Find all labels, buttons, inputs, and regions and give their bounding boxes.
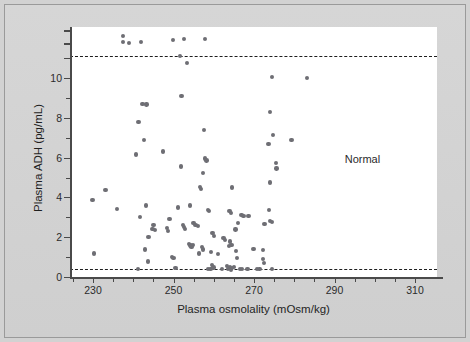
y-axis-line: [70, 27, 72, 278]
normal-annotation-label: Normal: [345, 153, 380, 165]
data-point: [171, 38, 175, 42]
x-major-tick: [335, 277, 336, 283]
data-point: [144, 203, 148, 207]
data-point: [146, 259, 150, 263]
data-point: [121, 40, 125, 44]
y-minor-tick: [66, 257, 70, 258]
data-point: [196, 224, 200, 228]
x-minor-tick: [194, 277, 195, 282]
data-point: [262, 222, 266, 226]
data-point: [139, 40, 143, 44]
x-minor-tick: [395, 277, 396, 282]
data-point: [227, 244, 231, 248]
data-point: [233, 227, 237, 231]
y-minor-tick: [66, 217, 70, 218]
data-point: [271, 133, 275, 137]
y-axis-break-tick: [64, 43, 71, 44]
data-point: [103, 188, 107, 192]
data-point: [153, 228, 157, 232]
data-point: [115, 207, 119, 211]
x-minor-tick: [214, 277, 215, 282]
x-major-tick: [93, 277, 94, 283]
x-major-tick: [415, 277, 416, 283]
x-tick-label: 230: [84, 284, 102, 296]
upper-detection-limit-dashed-line: [70, 56, 437, 57]
data-point: [209, 250, 213, 254]
data-point: [202, 128, 206, 132]
y-minor-tick: [66, 138, 70, 139]
data-point: [236, 221, 240, 225]
data-point: [142, 138, 146, 142]
figure-container: Plasma osmolality (mOsm/kg) Plasma ADH (…: [0, 0, 470, 342]
y-axis-break-tick: [64, 30, 71, 31]
data-point: [268, 110, 272, 114]
x-minor-tick: [234, 277, 235, 282]
x-minor-tick: [294, 277, 295, 282]
data-point: [274, 166, 278, 170]
data-point: [270, 220, 274, 224]
y-axis-label: Plasma ADH (pg/mL): [32, 58, 44, 258]
data-point: [183, 227, 187, 231]
x-minor-tick: [153, 277, 154, 282]
data-point: [182, 37, 186, 41]
y-tick-label: 0: [48, 271, 62, 283]
data-point: [266, 142, 270, 146]
data-point: [171, 256, 175, 260]
x-minor-tick: [113, 277, 114, 282]
data-point: [201, 171, 205, 175]
data-point: [229, 267, 233, 271]
y-major-tick: [64, 277, 70, 278]
x-tick-label: 250: [165, 284, 183, 296]
data-point: [138, 215, 142, 219]
data-point: [240, 267, 244, 271]
x-tick-label: 270: [245, 284, 263, 296]
data-point: [121, 34, 125, 38]
data-point: [166, 229, 170, 233]
data-point: [208, 267, 212, 271]
data-point: [216, 252, 220, 256]
x-minor-tick: [375, 277, 376, 282]
x-minor-tick: [314, 277, 315, 282]
y-minor-tick: [66, 98, 70, 99]
y-tick-label: 10: [48, 72, 62, 84]
data-point: [90, 198, 94, 202]
data-point: [176, 205, 180, 209]
data-point: [223, 238, 227, 242]
data-point: [146, 235, 150, 239]
y-minor-tick: [66, 178, 70, 179]
x-minor-tick: [133, 277, 134, 282]
data-point: [230, 185, 234, 189]
x-axis-label: Plasma osmolality (mOsm/kg): [70, 303, 437, 315]
data-point: [270, 267, 274, 271]
data-point: [188, 203, 192, 207]
data-point: [246, 214, 250, 218]
data-point: [144, 102, 148, 106]
data-point: [235, 256, 239, 260]
data-point: [185, 61, 189, 65]
data-point: [134, 152, 138, 156]
data-point: [261, 248, 265, 252]
data-point: [229, 211, 233, 215]
data-point: [262, 261, 266, 265]
y-tick-label: 2: [48, 231, 62, 243]
data-point: [257, 267, 261, 271]
data-point: [274, 161, 278, 165]
data-point: [136, 267, 140, 271]
data-point: [173, 266, 177, 270]
data-point: [203, 37, 207, 41]
x-minor-tick: [355, 277, 356, 282]
x-major-tick: [254, 277, 255, 283]
data-point: [204, 158, 208, 162]
data-point: [191, 243, 195, 247]
y-major-tick: [64, 158, 70, 159]
x-tick-label: 310: [406, 284, 424, 296]
data-point: [207, 209, 211, 213]
x-tick-label: 290: [326, 284, 344, 296]
y-major-tick: [64, 78, 70, 79]
data-point: [167, 217, 171, 221]
data-point: [234, 249, 238, 253]
data-point: [268, 180, 272, 184]
data-point: [199, 187, 203, 191]
data-point: [201, 247, 205, 251]
data-point: [245, 267, 249, 271]
